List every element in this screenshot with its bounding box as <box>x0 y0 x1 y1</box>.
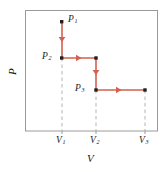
data-point-v3-p3 <box>143 88 146 91</box>
point-label-p2-sub: 2 <box>48 55 52 61</box>
tick-label-v2-sub: 2 <box>96 139 100 145</box>
tick-label-v1-sub: 1 <box>62 139 66 145</box>
y-axis-label: P <box>7 64 18 80</box>
x-axis-label: V <box>87 153 94 164</box>
data-point-p1 <box>60 20 63 23</box>
point-label-p3: P3 <box>75 84 84 94</box>
point-label-p2: P2 <box>42 52 51 62</box>
data-point-p2 <box>60 56 63 59</box>
tick-label-v1-base: V <box>56 135 62 145</box>
tick-label-v1: V1 <box>56 136 65 146</box>
tick-label-v3: V3 <box>139 136 148 146</box>
arrow-marker-segment-1-icon <box>59 37 66 42</box>
arrow-marker-segment-3-icon <box>93 70 100 75</box>
data-point-p3 <box>94 88 97 91</box>
point-label-p3-base: P <box>75 83 81 93</box>
point-label-p2-base: P <box>42 51 48 61</box>
arrow-marker-segment-4-icon <box>116 87 122 93</box>
tick-label-v3-base: V <box>139 135 145 145</box>
point-label-p1-sub: 1 <box>74 18 78 24</box>
point-label-p3-sub: 3 <box>81 87 85 93</box>
data-point-corner-v2-p2 <box>94 56 97 59</box>
point-label-p1-base: P <box>68 14 74 24</box>
tick-label-v2: V2 <box>90 136 99 146</box>
arrow-marker-segment-2-icon <box>76 55 82 61</box>
point-label-p1: P1 <box>68 15 77 25</box>
tick-label-v2-base: V <box>90 135 96 145</box>
tick-label-v3-sub: 3 <box>145 139 149 145</box>
pv-diagram-figure: P1 P2 P3 V1 V2 V3 P V <box>0 0 168 172</box>
plot-frame <box>26 11 158 132</box>
